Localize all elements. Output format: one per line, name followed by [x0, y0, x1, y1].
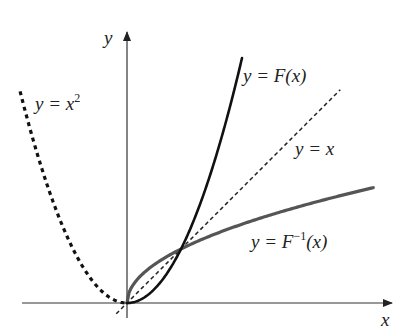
inverse-function-label: y = F−1(x) — [249, 229, 327, 253]
function-F-label-text: y = F(x) — [241, 65, 306, 87]
function-inverse-diagram: y x y = x2 y = F(x) y = x y = F−1(x) — [0, 0, 401, 332]
inverse-label-exponent: −1 — [293, 229, 306, 243]
parabola-y-equals-x-squared — [20, 91, 127, 303]
identity-label-text: y = x — [293, 138, 335, 159]
x-axis-label: x — [380, 309, 390, 330]
parabola-label: y = x2 — [33, 91, 80, 114]
y-axis-label: y — [102, 27, 113, 48]
identity-line-y-equals-x — [116, 90, 340, 314]
identity-label: y = x — [293, 138, 335, 159]
x-axis-label-text: x — [380, 309, 390, 330]
inverse-label-tail: (x) — [306, 231, 327, 253]
function-F-curve — [127, 58, 242, 303]
inverse-label-main: y = F — [249, 231, 294, 252]
y-axis-label-text: y — [102, 27, 113, 48]
parabola-label-main: y = x — [33, 93, 75, 114]
plot-canvas: y x y = x2 y = F(x) y = x y = F−1(x) — [0, 0, 401, 332]
parabola-label-exponent: 2 — [74, 91, 80, 105]
function-F-label: y = F(x) — [241, 65, 306, 87]
